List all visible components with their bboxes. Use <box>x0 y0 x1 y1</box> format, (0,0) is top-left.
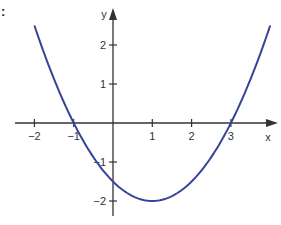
axes <box>15 8 278 216</box>
x-axis-arrow-icon <box>266 119 278 127</box>
parabola-plot: −2−1123−2−112xy <box>0 0 281 225</box>
y-axis-arrow-icon <box>109 8 117 20</box>
x-axis-label: x <box>265 131 271 143</box>
chart: −2−1123−2−112xy <box>0 0 281 225</box>
y-tick-label: −2 <box>93 195 106 207</box>
tick-labels: −2−1123−2−112xy <box>28 8 271 207</box>
y-axis-label: y <box>101 8 107 20</box>
y-tick-label: 1 <box>100 78 106 90</box>
x-tick-label: 3 <box>228 130 234 142</box>
x-tick-label: 1 <box>149 130 155 142</box>
x-tick-label: −2 <box>28 130 41 142</box>
parabola-curve <box>34 26 270 202</box>
x-tick-label: 2 <box>189 130 195 142</box>
y-tick-label: 2 <box>100 39 106 51</box>
